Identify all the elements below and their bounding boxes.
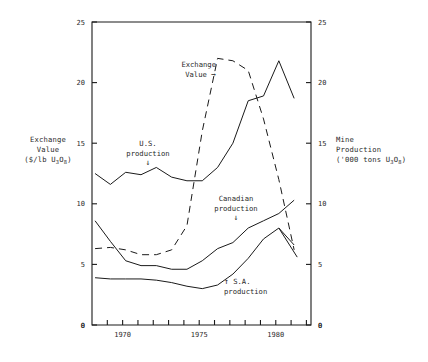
x-tick-label: 1975	[191, 331, 208, 339]
plot-area: 0055101015152020252519701975198000	[0, 0, 428, 362]
x-origin-label-left: 0	[81, 322, 85, 330]
data-series	[95, 58, 297, 288]
right-axis-ticks	[306, 22, 311, 325]
series-line	[95, 58, 294, 254]
left-tick-label: 5	[81, 261, 85, 269]
left-axis-ticks	[92, 22, 97, 325]
right-tick-label: 25	[318, 19, 326, 27]
series-line	[279, 228, 297, 257]
right-tick-label: 15	[318, 140, 326, 148]
left-tick-label: 15	[77, 140, 85, 148]
right-tick-label: 20	[318, 79, 326, 87]
series-line	[95, 228, 294, 289]
x-axis-ticks	[107, 320, 306, 325]
right-tick-label: 10	[318, 200, 326, 208]
axis-tick-labels: 0055101015152020252519701975198000	[77, 19, 327, 339]
x-origin-label-right: 0	[318, 322, 322, 330]
right-tick-label: 5	[318, 261, 322, 269]
x-tick-label: 1970	[114, 331, 131, 339]
series-line	[95, 200, 294, 269]
left-tick-label: 25	[77, 19, 85, 27]
chart-figure: Exchange Value ($/lb U3O8) Mine Producti…	[0, 0, 428, 362]
left-tick-label: 10	[77, 200, 85, 208]
x-tick-label: 1980	[267, 331, 284, 339]
left-tick-label: 20	[77, 79, 85, 87]
